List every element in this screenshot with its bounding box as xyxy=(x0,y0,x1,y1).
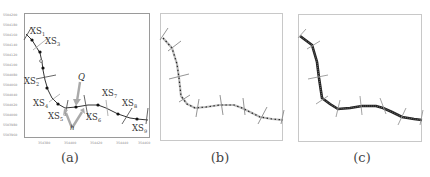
svg-text:5504100: 5504100 xyxy=(3,63,17,67)
svg-text:354380: 354380 xyxy=(38,141,50,145)
svg-text:5504160: 5504160 xyxy=(3,33,17,37)
svg-text:5504180: 5504180 xyxy=(3,23,17,27)
point-label-q: Q xyxy=(78,72,85,82)
svg-text:XS5: XS5 xyxy=(48,111,63,122)
svg-text:XS2: XS2 xyxy=(24,76,39,87)
svg-text:XS8: XS8 xyxy=(122,98,137,109)
svg-text:5504200: 5504200 xyxy=(3,13,17,17)
svg-text:XS4: XS4 xyxy=(33,98,48,109)
svg-text:5504020: 5504020 xyxy=(3,103,17,107)
panel-b: (b) xyxy=(150,0,290,177)
svg-text:XS1: XS1 xyxy=(30,26,45,37)
panel-c-caption: (c) xyxy=(342,150,382,165)
svg-text:5504000: 5504000 xyxy=(3,113,17,117)
cross-sections xyxy=(24,28,148,124)
svg-text:5504080: 5504080 xyxy=(3,73,17,77)
svg-text:354440: 354440 xyxy=(116,141,128,145)
annotation-arrows xyxy=(66,82,82,128)
panel-a: 5504200 5504180 5504160 5504140 5504120 … xyxy=(0,0,150,177)
svg-text:5504120: 5504120 xyxy=(3,53,17,57)
svg-text:5504040: 5504040 xyxy=(3,93,17,97)
panel-a-caption: (a) xyxy=(50,150,90,165)
svg-text:5504060: 5504060 xyxy=(3,83,17,87)
svg-text:354420: 354420 xyxy=(90,141,102,145)
svg-text:5503980: 5503980 xyxy=(3,123,17,127)
panel-b-caption: (b) xyxy=(200,150,240,165)
panel-c: (c) xyxy=(290,0,430,177)
svg-text:XS6: XS6 xyxy=(86,112,101,123)
svg-text:5504140: 5504140 xyxy=(3,43,17,47)
svg-text:XS9: XS9 xyxy=(132,123,147,134)
svg-text:354400: 354400 xyxy=(64,141,76,145)
x-axis-ticks: 354380 354400 354420 354440 354460 xyxy=(38,141,150,145)
svg-text:5503960: 5503960 xyxy=(3,133,17,137)
offset-label-h: h xyxy=(70,124,75,132)
open-node xyxy=(40,60,43,63)
svg-text:XS3: XS3 xyxy=(45,36,60,47)
svg-text:354460: 354460 xyxy=(138,141,150,145)
svg-text:XS7: XS7 xyxy=(102,88,117,99)
y-axis-ticks: 5504200 5504180 5504160 5504140 5504120 … xyxy=(3,13,17,137)
cross-sections xyxy=(298,29,423,125)
